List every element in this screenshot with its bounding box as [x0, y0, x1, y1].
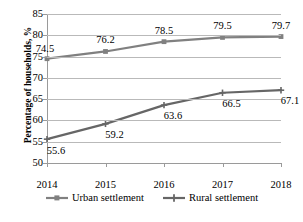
x-tick-mark [281, 163, 282, 167]
legend-label: Urban settlement [72, 193, 144, 204]
x-tick-mark [223, 163, 224, 167]
y-tick-label: 60 [21, 115, 43, 126]
x-tick-mark [164, 163, 165, 167]
x-tick-label: 2017 [203, 180, 243, 191]
y-tick-label: 80 [21, 30, 43, 41]
y-tick-label: 85 [21, 9, 43, 20]
x-axis-tick-labels: 20142015201620172018 [47, 14, 281, 163]
x-tick-label: 2015 [86, 180, 126, 191]
square-marker-icon [45, 193, 69, 203]
plus-marker-icon [162, 193, 186, 203]
x-tick-mark [47, 163, 48, 167]
line-chart: Percentage of households, % 505560657075… [0, 0, 303, 222]
y-axis-tick-labels: 5055606570758085 [18, 14, 43, 163]
legend-label: Rural settlement [189, 193, 258, 204]
x-tick-mark [106, 163, 107, 167]
chart-legend: Urban settlementRural settlement [0, 193, 303, 204]
x-tick-label: 2014 [27, 180, 67, 191]
y-tick-label: 65 [21, 94, 43, 105]
legend-item-rural[interactable]: Rural settlement [162, 193, 258, 204]
y-tick-label: 50 [21, 158, 43, 169]
x-tick-label: 2016 [144, 180, 184, 191]
legend-item-urban[interactable]: Urban settlement [45, 193, 144, 204]
y-tick-label: 70 [21, 73, 43, 84]
x-tick-label: 2018 [261, 180, 301, 191]
